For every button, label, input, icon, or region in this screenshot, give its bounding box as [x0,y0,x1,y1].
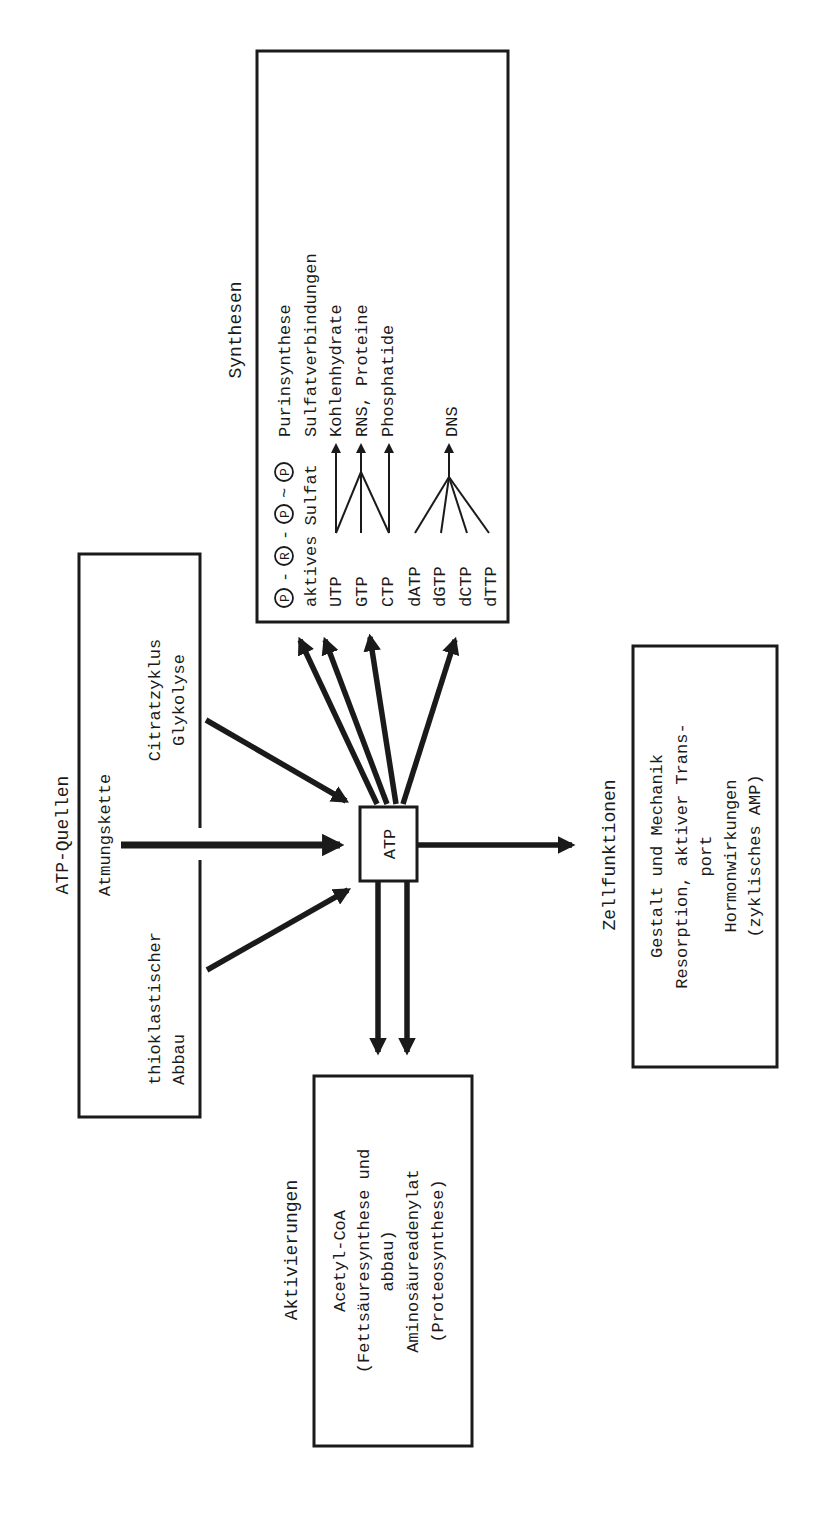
source-gtp: GTP [353,576,372,607]
zellfunktionen-group: Zellfunktionen Gestalt und Mechanik Reso… [600,646,777,1067]
target-kohlenhydrate: Kohlenhydrate [327,304,346,437]
source-dttp: dTTP [482,566,501,607]
acetyl-coa-label: Acetyl-CoA [331,1209,350,1312]
source-aktives-sulfat: aktives Sulfat [302,464,321,607]
fettsaeure-label: (Fettsäuresynthese und [355,1149,374,1373]
arrow-citrat-to-atp [206,720,346,801]
zellfunktionen-title: Zellfunktionen [600,779,620,930]
ribose-symbol: R [278,552,293,560]
target-purinsynthese: Purinsynthese [276,304,295,437]
aktivierungen-group: Aktivierungen Acetyl-CoA (Fettsäuresynth… [282,1076,472,1446]
separator: ~ [276,488,295,498]
abbau-label: abbau) [379,1230,398,1291]
atp-sources-title: ATP-Quellen [53,776,73,895]
target-phosphatide: Phosphatide [379,325,398,437]
target-sulfatverbindungen: Sulfatverbindungen [302,253,321,437]
target-dns: DNS [443,406,462,437]
source-citratzyklus: Citratzyklus [146,639,165,761]
source-atmungskette: Atmungskette [96,774,115,896]
source-glykolyse: Glykolyse [170,654,189,746]
port-label: port [697,836,716,877]
separator: - [276,572,295,582]
atp-diagram: ATP-Quellen Atmungskette Citratzyklus Gl… [0,0,829,1513]
separator: - [276,530,295,540]
target-rns-proteine: RNS, Proteine [353,304,372,437]
zyklisches-amp-label: (zyklisches AMP) [746,774,765,937]
phosphate-symbol: P [278,594,293,602]
synthesis-arrows [300,637,455,804]
gestalt-mechanik-label: Gestalt und Mechanik [648,754,667,958]
atp-label: ATP [381,829,400,860]
hormonwirkungen-label: Hormonwirkungen [722,779,741,932]
source-dctp: dCTP [457,566,476,607]
source-thioklastischer: thioklastischer [146,932,165,1085]
synthesen-group: Synthesen P - R - P ~ P Purinsynthese ak… [226,51,508,622]
proteosynthese-label: (Proteosynthese) [429,1179,448,1342]
arrow-thio-to-atp [207,890,348,970]
resorption-label: Resorption, aktiver Trans- [673,723,692,988]
phosphate-symbol: P [278,510,293,518]
atp-sources-group: ATP-Quellen Atmungskette Citratzyklus Gl… [53,554,204,1117]
phosphate-symbol: P [278,468,293,476]
source-ctp: CTP [379,576,398,607]
source-abbau: Abbau [170,1034,189,1085]
source-dgtp: dGTP [431,566,450,607]
synthesen-title: Synthesen [226,281,246,378]
aktivierungen-title: Aktivierungen [282,1180,302,1320]
source-utp: UTP [327,576,346,607]
source-datp: dATP [406,566,425,607]
aminosaeureadenylat-label: Aminosäureadenylat [404,1169,423,1353]
